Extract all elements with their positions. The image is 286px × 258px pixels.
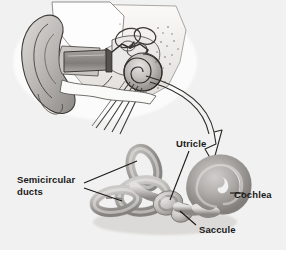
label-semicircular-ducts: Semicircular ducts bbox=[17, 174, 75, 197]
eardrum bbox=[106, 48, 112, 72]
illustration-canvas bbox=[0, 0, 286, 258]
ear-anatomy-figure: Semicircular ducts Utricle Cochlea Saccu… bbox=[0, 0, 286, 258]
upper-cochlea bbox=[124, 53, 162, 91]
lower-cochlea bbox=[192, 160, 246, 210]
ear-canal bbox=[64, 50, 108, 72]
figure-bottom-margin bbox=[0, 250, 286, 258]
label-utricle: Utricle bbox=[176, 138, 206, 150]
label-saccule: Saccule bbox=[199, 224, 236, 236]
label-cochlea: Cochlea bbox=[234, 189, 272, 201]
